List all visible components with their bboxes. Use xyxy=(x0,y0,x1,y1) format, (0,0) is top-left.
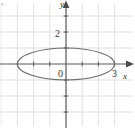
x-axis-label: x xyxy=(123,72,127,81)
cartesian-plot xyxy=(0,0,135,128)
origin-label: 0 xyxy=(58,69,63,79)
graph-figure: a. y x 0 2 3 xyxy=(0,0,135,128)
x-axis-arrowhead xyxy=(126,60,134,67)
x-tick-label-3: 3 xyxy=(112,69,117,79)
y-axis-label: y xyxy=(60,0,64,9)
figure-corner-mark: a. xyxy=(1,1,4,6)
y-tick-label-2: 2 xyxy=(55,29,60,39)
